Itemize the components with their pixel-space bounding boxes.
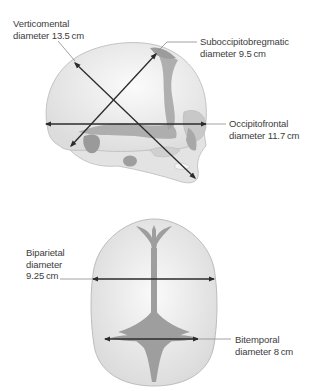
bitemporal-label: Bitemporal diameter 8 cm: [235, 334, 293, 357]
verticomental-label-line2: diameter 13.5 cm: [13, 30, 84, 42]
ear-opening: [123, 156, 137, 167]
bitemporal-label-line2: diameter 8 cm: [235, 346, 293, 358]
top-view-skull: [91, 219, 217, 386]
biparietal-label-line3: 9.25 cm: [26, 270, 65, 282]
occipitofrontal-label: Occipitofrontal diameter 11.7 cm: [229, 118, 299, 141]
bitemporal-label-line1: Bitemporal: [235, 334, 293, 346]
biparietal-label: Biparietal diameter 9.25 cm: [26, 247, 65, 282]
verticomental-label-line1: Verticomental: [13, 18, 84, 30]
sagittal-suture: [151, 248, 157, 312]
occipitofrontal-label-line2: diameter 11.7 cm: [229, 130, 299, 142]
verticomental-leader: [58, 41, 75, 61]
suboccipitobregmatic-label-line2: diameter 9.5 cm: [200, 48, 289, 60]
suboccipitobregmatic-label: Suboccipitobregmatic diameter 9.5 cm: [200, 36, 289, 59]
occipitofrontal-label-line1: Occipitofrontal: [229, 118, 299, 130]
verticomental-label: Verticomental diameter 13.5 cm: [13, 18, 84, 41]
suboccipitobregmatic-label-line1: Suboccipitobregmatic: [200, 36, 289, 48]
biparietal-label-line2: diameter: [26, 259, 65, 271]
biparietal-label-line1: Biparietal: [26, 247, 65, 259]
